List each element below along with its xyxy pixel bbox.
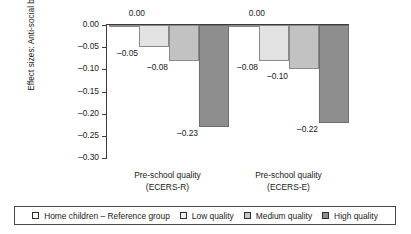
legend-label-medium-quality: Medium quality xyxy=(256,211,312,221)
x-category-label-ecersr-line2: (ECERS-R) xyxy=(107,182,228,194)
y-tick-label-4: –0.20 xyxy=(78,108,99,118)
bar-ecerse-high[interactable] xyxy=(319,25,349,123)
chart-legend: Home children – Reference group Low qual… xyxy=(14,206,396,225)
value-label-ecerse-high: –0.22 xyxy=(280,124,318,134)
bar-ecerse-medium[interactable] xyxy=(289,25,319,69)
value-label-ecersr-medium: –0.08 xyxy=(130,62,168,72)
y-tick-label-6: –0.30 xyxy=(78,152,99,162)
legend-item-high-quality[interactable]: High quality xyxy=(322,211,378,221)
y-tick-label-2: –0.10 xyxy=(78,63,99,73)
bar-ecersr-low[interactable] xyxy=(139,25,169,47)
y-tick-label-3: –0.15 xyxy=(78,86,99,96)
value-label-ecerse-reference: 0.00 xyxy=(221,8,265,18)
plot-area: 0.00 –0.05 –0.10 –0.15 –0.20 –0.25 –0.30 xyxy=(107,25,348,158)
value-label-ecersr-high: –0.23 xyxy=(160,128,198,138)
x-category-label-ecerse: Pre-school quality (ECERS-E) xyxy=(228,170,349,193)
legend-item-medium-quality[interactable]: Medium quality xyxy=(244,211,312,221)
value-label-ecersr-low: –0.05 xyxy=(100,48,138,58)
legend-label-high-quality: High quality xyxy=(334,211,378,221)
legend-swatch-medium-quality-icon xyxy=(244,212,251,219)
value-label-ecerse-medium: –0.10 xyxy=(250,71,288,81)
x-category-label-ecerse-line2: (ECERS-E) xyxy=(228,182,349,194)
bar-ecersr-reference[interactable] xyxy=(109,25,139,27)
y-tick-label-1: –0.05 xyxy=(78,41,99,51)
value-label-ecersr-reference: 0.00 xyxy=(101,8,145,18)
bar-ecerse-low[interactable] xyxy=(259,25,289,61)
legend-label-low-quality: Low quality xyxy=(192,211,234,221)
x-category-label-ecersr-line1: Pre-school quality xyxy=(107,170,228,182)
x-category-label-ecerse-line1: Pre-school quality xyxy=(228,170,349,182)
y-axis-title: Effect sizes: Anti-social behaviour xyxy=(27,0,41,109)
x-category-label-ecersr: Pre-school quality (ECERS-R) xyxy=(107,170,228,193)
y-tick-label-0: 0.00 xyxy=(83,19,99,29)
legend-label-reference: Home children – Reference group xyxy=(44,211,170,221)
legend-item-reference[interactable]: Home children – Reference group xyxy=(32,211,170,221)
bar-ecerse-reference[interactable] xyxy=(229,25,259,27)
legend-swatch-reference-icon xyxy=(32,212,39,219)
legend-swatch-low-quality-icon xyxy=(180,212,187,219)
bar-ecersr-medium[interactable] xyxy=(169,25,199,61)
y-tick-label-5: –0.25 xyxy=(78,130,99,140)
bar-ecersr-high[interactable] xyxy=(199,25,229,127)
legend-item-low-quality[interactable]: Low quality xyxy=(180,211,234,221)
legend-swatch-high-quality-icon xyxy=(322,212,329,219)
bar-chart-figure: Effect sizes: Anti-social behaviour 0.00… xyxy=(0,0,411,234)
